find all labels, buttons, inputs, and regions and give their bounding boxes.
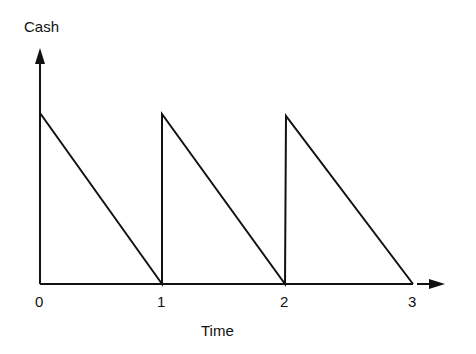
x-axis-arrow-icon bbox=[429, 279, 445, 289]
y-axis-label: Cash bbox=[24, 18, 59, 35]
chart-canvas bbox=[0, 0, 476, 354]
x-tick-2: 2 bbox=[280, 293, 288, 310]
x-tick-0: 0 bbox=[35, 293, 43, 310]
x-tick-3: 3 bbox=[408, 293, 416, 310]
x-tick-1: 1 bbox=[157, 293, 165, 310]
y-axis-arrow-icon bbox=[35, 48, 45, 64]
x-axis-label: Time bbox=[201, 322, 234, 339]
cash-series-line bbox=[40, 113, 413, 284]
